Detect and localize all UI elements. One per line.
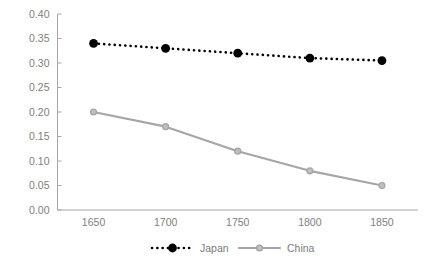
y-tick-label: 0.15 [29,130,50,142]
japan-data-point [161,44,170,53]
x-tick-label: 1700 [154,216,178,228]
series-japan [89,39,386,65]
x-tick-label: 1750 [226,216,250,228]
y-tick-marks [58,14,62,210]
china-data-point [163,124,169,130]
legend-label-china: China [287,242,315,254]
y-tick-label: 0.25 [29,81,50,93]
line-chart: 0.000.050.100.150.200.250.300.350.40 165… [0,0,437,266]
x-tick-labels: 16501700175018001850 [82,216,394,228]
legend-japan-marker [168,244,177,253]
legend-china-marker [257,245,263,251]
y-tick-label: 0.30 [29,57,50,69]
y-tick-label: 0.00 [29,204,50,216]
y-tick-label: 0.35 [29,32,50,44]
x-axis: 16501700175018001850 [58,210,419,228]
x-tick-label: 1650 [82,216,106,228]
y-tick-label: 0.40 [29,8,50,20]
china-data-point [379,183,385,189]
japan-data-point [89,39,98,48]
japan-data-point [233,49,242,58]
y-tick-labels: 0.000.050.100.150.200.250.300.350.40 [29,8,50,216]
y-tick-label: 0.10 [29,155,50,167]
chart-canvas: 0.000.050.100.150.200.250.300.350.40 165… [0,0,437,266]
y-tick-label: 0.05 [29,179,50,191]
x-tick-label: 1850 [370,216,394,228]
china-data-point [91,109,97,115]
y-axis: 0.000.050.100.150.200.250.300.350.40 [29,8,61,216]
x-tick-label: 1800 [298,216,322,228]
japan-data-point [378,56,387,65]
legend-label-japan: Japan [200,242,229,254]
china-data-point [235,148,241,154]
y-tick-label: 0.20 [29,106,50,118]
series-china [91,109,385,188]
chart-legend: JapanChina [152,242,315,254]
china-data-point [307,168,313,174]
japan-data-point [305,54,314,63]
